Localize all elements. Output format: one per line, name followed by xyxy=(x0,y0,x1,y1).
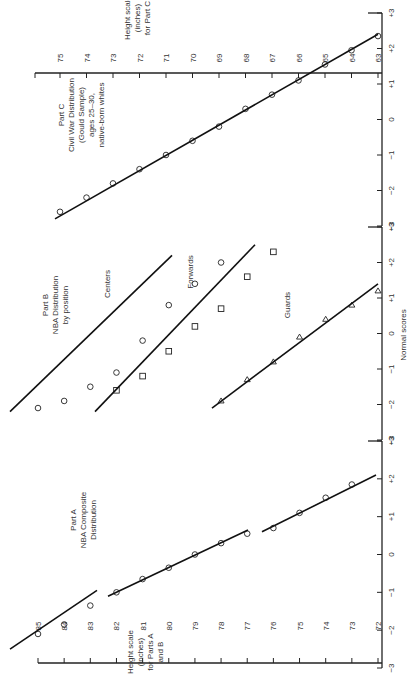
height-tick-label: 72 xyxy=(136,53,145,62)
z-tick-label: −3 xyxy=(387,663,396,673)
height-tick-label: 81 xyxy=(139,621,148,630)
z-tick-label: +2 xyxy=(387,43,396,53)
part-c-label: (Gould Sample) xyxy=(77,87,86,143)
part-a-label: Distribution xyxy=(89,500,98,540)
normal-scores-label: Normal scores xyxy=(399,309,408,361)
height-tick-label: 63 xyxy=(374,53,383,62)
z-tick-label: −2 xyxy=(387,185,396,195)
height-tick-label: 80 xyxy=(165,621,174,630)
height-tick-label: 73 xyxy=(348,621,357,630)
square-marker xyxy=(140,373,146,379)
z-tick-label: +1 xyxy=(387,512,396,522)
height-tick-label: 66 xyxy=(295,53,304,62)
height-tick-label: 75 xyxy=(296,621,305,630)
part-c-label: Part C xyxy=(57,103,66,126)
part-c-label: native-born whites xyxy=(97,83,106,148)
height-tick-label: 82 xyxy=(112,621,121,630)
height-axis-c-label: for Part C xyxy=(143,1,152,35)
circle-marker xyxy=(218,260,224,266)
height-tick-label: 71 xyxy=(162,53,171,62)
circle-marker xyxy=(140,338,146,344)
height-axis-ab-label: (inches) xyxy=(136,637,145,666)
z-tick-label: 0 xyxy=(387,552,396,557)
z-tick-label: 0 xyxy=(387,331,396,336)
height-tick-label: 73 xyxy=(109,53,118,62)
height-axis-c-label: (inches) xyxy=(133,3,142,32)
height-tick-label: 69 xyxy=(215,53,224,62)
part-b-label: by position xyxy=(61,286,70,324)
square-marker xyxy=(166,348,172,354)
fit-line-a1 xyxy=(10,590,97,649)
height-tick-label: 76 xyxy=(269,621,278,630)
height-axis-ab-label: Height scale xyxy=(126,629,135,674)
square-marker xyxy=(192,324,198,330)
circle-marker xyxy=(61,398,67,404)
part-c-label: ages 25–30, xyxy=(87,93,96,137)
circle-marker xyxy=(88,603,94,609)
fit-line-a2 xyxy=(108,530,248,596)
square-marker xyxy=(218,306,224,312)
z-tick-label: −1 xyxy=(387,150,396,160)
z-tick-label: +2 xyxy=(387,474,396,484)
circle-marker xyxy=(57,209,63,215)
height-tick-label: 70 xyxy=(189,53,198,62)
part-b-label: NBA Distribution xyxy=(51,276,60,334)
circle-marker xyxy=(35,405,41,411)
square-marker xyxy=(244,274,250,280)
z-tick-label: +1 xyxy=(387,79,396,89)
fit-line-centers xyxy=(10,255,172,411)
forwards-label: Forwards xyxy=(186,255,195,288)
height-axis-ab-label: and B xyxy=(156,642,165,663)
height-tick-label: 79 xyxy=(191,621,200,630)
circle-marker xyxy=(114,370,120,376)
z-tick-label: −1 xyxy=(387,587,396,597)
height-tick-label: 74 xyxy=(83,53,92,62)
height-axis-c-label: Height scale xyxy=(123,0,132,40)
square-marker xyxy=(271,249,277,255)
triangle-marker xyxy=(297,334,303,339)
guards-label: Guards xyxy=(283,292,292,318)
z-tick-label: −2 xyxy=(387,625,396,635)
height-tick-label: 67 xyxy=(268,53,277,62)
part-a-label: NBA Composite xyxy=(79,491,88,548)
height-tick-label: 75 xyxy=(56,53,65,62)
height-tick-label: 83 xyxy=(86,621,95,630)
part-a-label: Part A xyxy=(69,508,78,530)
fit-line-forwards xyxy=(95,245,255,412)
part-c-label: Civil War Distribution xyxy=(67,78,76,152)
fit-line-a3 xyxy=(262,475,376,532)
part-b-label: Part B xyxy=(41,294,50,316)
height-tick-label: 74 xyxy=(322,621,331,630)
z-tick-label: +1 xyxy=(387,293,396,303)
height-tick-label: 65 xyxy=(321,53,330,62)
circle-marker xyxy=(166,302,172,308)
centers-label: Centers xyxy=(103,270,112,298)
height-tick-label: 68 xyxy=(242,53,251,62)
triangle-marker xyxy=(375,288,381,293)
height-axis-ab-label: for Parts A xyxy=(146,633,155,671)
fit-line-guards xyxy=(212,284,378,408)
z-tick-label: +3 xyxy=(387,8,396,18)
height-tick-label: 72 xyxy=(374,621,383,630)
chart-svg: −3−2−10+1+2+3−3−2−10+1+2+3−3−2−10+1+2+3N… xyxy=(0,0,415,675)
z-tick-label: −3 xyxy=(387,435,396,445)
normal-probability-chart: −3−2−10+1+2+3−3−2−10+1+2+3−3−2−10+1+2+3N… xyxy=(0,0,415,675)
z-tick-label: 0 xyxy=(387,117,396,122)
height-tick-label: 64 xyxy=(348,53,357,62)
z-tick-label: −3 xyxy=(387,221,396,231)
circle-marker xyxy=(88,384,94,390)
height-tick-label: 77 xyxy=(243,621,252,630)
z-tick-label: −2 xyxy=(387,399,396,409)
height-tick-label: 78 xyxy=(217,621,226,630)
z-tick-label: −1 xyxy=(387,364,396,374)
z-tick-label: +2 xyxy=(387,257,396,267)
